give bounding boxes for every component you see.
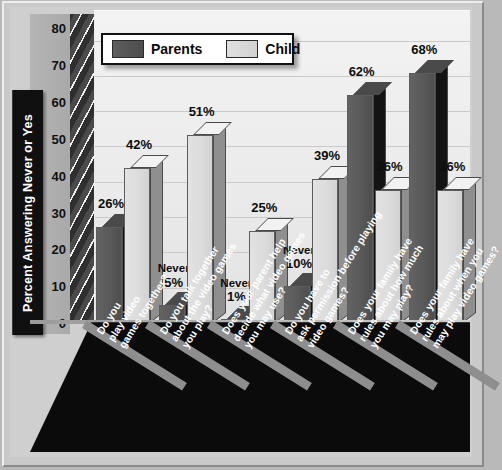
legend-swatch-child [226,40,258,58]
y-tick-70: 70 [52,58,66,73]
y-tick-50: 50 [52,131,66,146]
bar-top-3d [415,60,454,73]
legend-swatch-parents [112,40,144,58]
y-axis-title: Percent Answering Never or Yes [21,114,35,312]
bar-value-label: 62% [331,64,393,79]
legend-label-child: Child [265,41,300,57]
category-labels: Do youplay videogames together?Do you ta… [30,322,470,454]
bar-value-label: 36% [421,159,483,174]
legend-label-parents: Parents [151,41,202,57]
y-tick-10: 10 [52,279,66,294]
y-axis-title-block: Percent Answering Never or Yes [12,90,43,335]
y-tick-30: 30 [52,205,66,220]
axis-wall-3d [70,14,95,324]
y-tick-40: 40 [52,168,66,183]
y-tick-60: 60 [52,95,66,110]
legend: Parents Child [101,33,294,65]
bar-value-label: 68% [393,42,455,57]
y-tick-80: 80 [52,21,66,36]
y-tick-20: 20 [52,242,66,257]
